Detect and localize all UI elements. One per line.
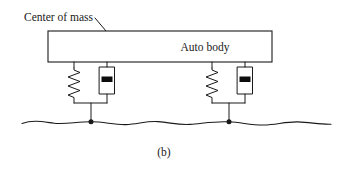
- rear-damper-piston: [240, 77, 251, 83]
- front-suspension: [68, 62, 115, 124]
- auto-body-label: Auto body: [181, 41, 230, 54]
- front-damper-piston: [102, 77, 113, 83]
- rear-spring: [206, 68, 218, 103]
- rear-suspension: [206, 62, 253, 124]
- figure-canvas: Center of mass Auto body (b): [0, 0, 354, 169]
- ground-surface: [22, 121, 331, 125]
- figure-caption: (b): [157, 146, 171, 159]
- auto-body-block: [48, 31, 272, 62]
- center-of-mass-label: Center of mass: [24, 11, 94, 23]
- suspension-figure: Center of mass Auto body (b): [0, 0, 354, 169]
- front-spring: [68, 68, 80, 103]
